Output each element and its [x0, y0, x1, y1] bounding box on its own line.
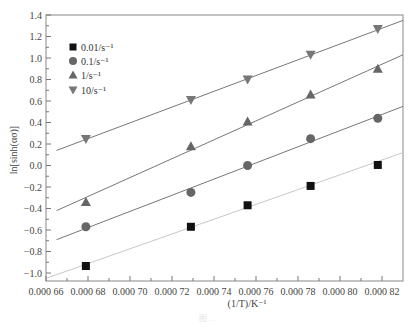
y-tick-label: −0.2: [24, 182, 42, 193]
triangle-up-marker: [81, 197, 91, 206]
circle-marker: [306, 134, 315, 143]
square-marker: [187, 223, 195, 231]
circle-marker: [373, 114, 382, 123]
y-tick-label: 0.0: [30, 160, 43, 171]
y-tick-label: 1.2: [30, 31, 43, 42]
x-tick-label: 0.000 76: [239, 286, 274, 297]
x-tick-label: 0.000 82: [365, 286, 400, 297]
y-tick-label: −0.4: [24, 203, 42, 214]
x-tick-label: 0.000 72: [155, 286, 190, 297]
square-marker: [70, 44, 77, 51]
triangle-down-marker: [373, 25, 383, 34]
triangle-up-marker: [373, 64, 383, 73]
legend: 0.01/s⁻¹0.1/s⁻¹1/s⁻¹10/s⁻¹: [69, 42, 114, 96]
y-tick-label: 0.4: [30, 117, 43, 128]
fit-line: [46, 153, 403, 279]
y-tick-label: −0.6: [24, 225, 42, 236]
triangle-up-marker: [69, 71, 78, 79]
y-axis-label: ln[sinh(ασ)]: [8, 126, 20, 174]
x-tick-label: 0.000 66: [29, 286, 64, 297]
x-tick-label: 0.000 70: [113, 286, 148, 297]
legend-label: 1/s⁻¹: [81, 70, 101, 81]
x-axis-label: (1/T)/K⁻¹: [228, 298, 267, 310]
circle-marker: [186, 188, 195, 197]
x-tick-label: 0.000 68: [71, 286, 106, 297]
y-tick-label: 0.2: [30, 139, 43, 150]
square-marker: [374, 161, 382, 169]
fit-line: [57, 106, 404, 239]
axis-ticks: 0.000 660.000 680.000 700.000 720.000 74…: [24, 10, 400, 298]
chart: 0.000 660.000 680.000 700.000 720.000 74…: [0, 0, 415, 328]
triangle-down-marker: [306, 51, 316, 60]
x-tick-label: 0.000 80: [323, 286, 358, 297]
x-tick-label: 0.000 78: [281, 286, 316, 297]
legend-label: 0.01/s⁻¹: [81, 42, 113, 53]
legend-label: 0.1/s⁻¹: [81, 56, 108, 67]
square-marker: [82, 262, 90, 270]
triangle-up-marker: [243, 116, 253, 125]
triangle-down-marker: [81, 135, 91, 144]
data-markers: [81, 25, 383, 270]
figure-caption: 图 …: [0, 312, 415, 323]
y-tick-label: 0.6: [30, 96, 43, 107]
legend-label: 10/s⁻¹: [81, 85, 106, 96]
circle-marker: [81, 222, 90, 231]
square-marker: [307, 182, 315, 190]
y-tick-label: −1.0: [24, 268, 42, 279]
y-tick-label: −0.8: [24, 246, 42, 257]
circle-marker: [243, 161, 252, 170]
square-marker: [244, 201, 252, 209]
y-tick-label: 1.4: [30, 10, 43, 21]
triangle-up-marker: [306, 90, 316, 99]
triangle-down-marker: [69, 87, 78, 95]
x-tick-label: 0.000 74: [197, 286, 232, 297]
circle-marker: [69, 57, 77, 65]
triangle-down-marker: [186, 96, 196, 105]
y-tick-label: 1.0: [30, 53, 43, 64]
triangle-up-marker: [186, 141, 196, 150]
y-tick-label: 0.8: [30, 74, 43, 85]
fit-line: [57, 20, 404, 150]
fit-line: [57, 55, 404, 211]
